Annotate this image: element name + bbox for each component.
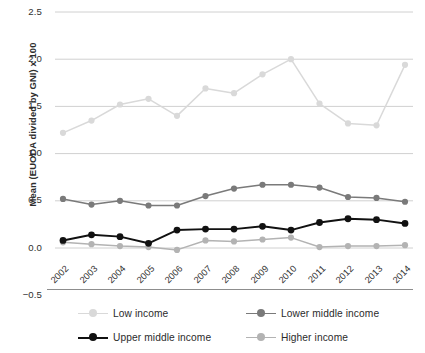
legend-marker-icon [246,332,276,343]
data-point [373,243,379,249]
data-point [402,62,408,68]
data-point [288,227,295,234]
x-axis-tick-label: 2014 [384,263,412,291]
data-point [117,243,123,249]
x-axis-tick-label: 2009 [242,263,270,291]
data-point [88,201,94,207]
x-axis-tick-label: 2012 [327,263,355,291]
data-point [117,233,124,240]
data-point [117,198,123,204]
data-point [402,220,409,227]
data-point [288,182,294,188]
legend-marker-icon [78,308,108,319]
y-axis-tick-label: 1.0 [2,147,42,158]
y-axis-tick-label: 0.0 [2,242,42,253]
data-point [231,90,237,96]
data-point [88,241,94,247]
data-point [60,196,66,202]
x-axis-tick-label: 2006 [156,263,184,291]
legend-item-higher-income[interactable]: Higher income [246,332,408,343]
data-point [259,236,265,242]
y-axis-tick-label: 2.5 [2,6,42,17]
data-point [231,238,237,244]
data-point [288,235,294,241]
axis-baseline [47,289,413,290]
legend-marker-icon [246,308,276,319]
data-point [145,202,151,208]
legend-label: Lower middle income [281,308,379,319]
data-point [316,244,322,250]
data-point [202,85,208,91]
y-axis-tick-label: −0.5 [2,289,42,300]
data-point [402,242,408,248]
data-point [174,113,180,119]
data-point [316,219,323,226]
data-point [373,122,379,128]
y-axis-tick-label: 0.5 [2,194,42,205]
legend-item-low-income[interactable]: Low income [78,308,246,319]
data-point [288,56,294,62]
data-point [88,117,94,123]
data-point [259,71,265,77]
data-point [402,199,408,205]
series-lower-middle-income [60,182,408,209]
y-axis-tick-label: 1.5 [2,100,42,111]
data-point [231,185,237,191]
data-point [145,240,152,247]
legend-label: Upper middle income [113,332,211,343]
x-axis-tick-label: 2011 [299,263,327,291]
data-point [174,247,180,253]
data-point [117,101,123,107]
data-point [373,195,379,201]
x-axis-tick-label: 2013 [356,263,384,291]
y-axis-tick-label: 2.0 [2,53,42,64]
chart-figure: Mean (EUODA divided by GNI) x 100 2.52.0… [0,0,425,353]
data-point [145,96,151,102]
data-point [259,182,265,188]
data-point [174,227,181,234]
data-point [231,226,238,233]
legend-label: Low income [113,308,168,319]
chart-canvas [55,8,413,256]
data-point [174,202,180,208]
series-low-income [60,56,408,136]
data-point [202,193,208,199]
data-point [345,243,351,249]
plot-area [55,8,413,256]
data-point [316,100,322,106]
data-point [60,237,67,244]
data-point [88,231,95,238]
legend-marker-icon [78,332,108,343]
series-higher-income [60,235,408,253]
data-point [345,194,351,200]
legend-item-lower-middle-income[interactable]: Lower middle income [246,308,408,319]
legend-item-upper-middle-income[interactable]: Upper middle income [78,332,246,343]
x-axis-tick-label: 2005 [128,263,156,291]
data-point [345,215,352,222]
x-axis-tick-label: 2002 [42,263,70,291]
data-point [259,223,266,230]
data-point [316,184,322,190]
x-axis-tick-label: 2008 [213,263,241,291]
data-point [60,130,66,136]
data-point [202,226,209,233]
x-axis-tick-label: 2004 [99,263,127,291]
chart-legend: Low incomeLower middle incomeUpper middl… [78,301,408,349]
x-axis-tick-label: 2003 [71,263,99,291]
data-point [202,237,208,243]
data-point [373,216,380,223]
x-axis-tick-label: 2007 [185,263,213,291]
x-axis-tick-label: 2010 [270,263,298,291]
data-point [345,120,351,126]
legend-label: Higher income [281,332,348,343]
